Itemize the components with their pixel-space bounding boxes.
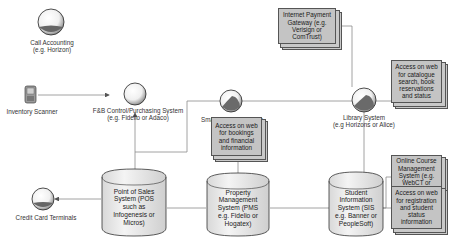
doc-line: reservations xyxy=(395,85,437,92)
inventory-scanner-icon xyxy=(25,86,36,103)
doc-line: for catalogue xyxy=(395,71,437,78)
cyl-line: e.g. Banner or xyxy=(335,212,377,220)
call-accounting-label: Call Accounting (e.g. Horizon) xyxy=(24,39,80,54)
cyl-line: System (SIS xyxy=(335,204,377,212)
doc-line: status xyxy=(395,211,437,218)
cyl-line: System (PMS xyxy=(218,204,258,212)
doc-line: for bookings xyxy=(215,129,257,136)
cyl-line: Point of Sales xyxy=(113,188,154,196)
doc-line: Online Course xyxy=(396,157,436,164)
library-system-icon xyxy=(352,88,376,112)
fnb-control-icon xyxy=(124,83,146,105)
doc-line: Internet Payment xyxy=(283,11,331,18)
doc-line: Access on web xyxy=(395,189,437,196)
doc-line: Gateway (e.g. xyxy=(283,19,331,26)
library-web-access-doc: Access on web for catalogue search, book… xyxy=(391,60,447,108)
sis-system-label: Student Information System (SIS e.g. Ban… xyxy=(329,182,383,234)
cyl-line: e.g. Fidelio or xyxy=(218,212,258,220)
call-accounting-icon xyxy=(38,9,64,35)
cyl-line: Information xyxy=(335,196,377,204)
cyl-line: Property xyxy=(218,189,258,197)
doc-line: ComTrust) xyxy=(283,33,331,40)
fnb-control-example: (e.g. Fidelio or Adaco) xyxy=(92,114,184,121)
cyl-line: Infogenesis or xyxy=(113,211,154,219)
credit-card-terminals-label: Credit Card Terminals xyxy=(14,214,78,221)
library-system-example: (e.g Horizons or Alice) xyxy=(322,121,406,128)
doc-line: for registration xyxy=(395,197,437,204)
internet-payment-doc: Internet Payment Gateway (e.g. Verisign … xyxy=(278,8,342,50)
pms-web-access-doc: Access on web for bookings and financial… xyxy=(211,117,267,161)
doc-line: search, book xyxy=(395,78,437,85)
call-accounting-example: (e.g. Horizon) xyxy=(24,46,80,53)
fnb-control-title: F&B Control/Purchasing System xyxy=(92,107,184,114)
doc-line: information xyxy=(395,218,437,225)
cyl-line: System (POS xyxy=(113,195,154,203)
cyl-line: Student xyxy=(335,189,377,197)
library-system-label: Library System (e.g Horizons or Alice) xyxy=(322,114,406,129)
smart-id-icon xyxy=(220,90,242,112)
cyl-line: PeopleSoft) xyxy=(335,220,377,228)
doc-line: Access on web xyxy=(215,122,257,129)
doc-line: Access on web xyxy=(395,63,437,70)
fnb-control-label: F&B Control/Purchasing System (e.g. Fide… xyxy=(92,107,184,122)
credit-card-terminals-icon xyxy=(32,188,54,210)
doc-line: Management xyxy=(396,165,436,172)
doc-line: and financial xyxy=(215,137,257,144)
cyl-line: Hogatex) xyxy=(218,220,258,228)
pms-system-label: Property Management System (PMS e.g. Fid… xyxy=(207,182,269,234)
sis-web-access-doc: Access on web for registration and stude… xyxy=(391,186,447,234)
doc-line: System (e.g. xyxy=(396,172,436,179)
inventory-scanner-label: Inventory Scanner xyxy=(4,108,60,115)
cyl-line: such as xyxy=(113,203,154,211)
pos-system-label: Point of Sales System (POS such as Infog… xyxy=(102,180,166,234)
doc-line: and status xyxy=(395,92,437,99)
cyl-line: Micros) xyxy=(113,219,154,227)
call-accounting-title: Call Accounting xyxy=(24,39,80,46)
cyl-line: Management xyxy=(218,196,258,204)
library-system-title: Library System xyxy=(322,114,406,121)
doc-line: information xyxy=(215,144,257,151)
doc-line: and student xyxy=(395,204,437,211)
doc-line: Verisign or xyxy=(283,26,331,33)
